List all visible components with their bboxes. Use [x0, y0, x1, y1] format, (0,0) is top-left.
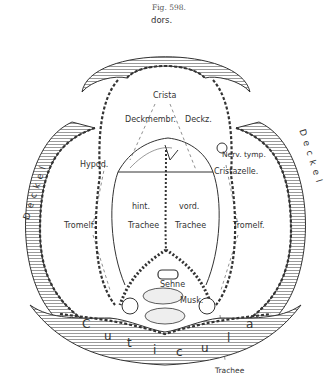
figure-caption: Fig. 598.	[152, 4, 186, 12]
label-trachee-bottom: Trachee	[215, 367, 244, 375]
label-tromelf-left: Tromelf.	[64, 222, 95, 230]
label-vord: vord.	[179, 203, 199, 211]
label-deckmembr: Deckmembr.	[125, 116, 176, 124]
dorsal-cuticle	[82, 57, 250, 92]
cuticula-letter-2: u	[104, 330, 112, 342]
cuticula-letter-6: u	[201, 342, 209, 354]
label-trachee-left: Trachee	[128, 222, 159, 230]
label-hint: hint.	[132, 203, 150, 211]
crista-organ	[118, 138, 227, 172]
tympanal-organ-diagram	[0, 0, 331, 386]
cuticula-letter-7: l	[227, 332, 230, 344]
label-nerv-tymp: Nerv. tymp.	[222, 151, 266, 159]
label-deckz: Deckz.	[185, 116, 212, 124]
cuticula-letter-5: c	[176, 346, 183, 358]
label-sehne: Sehne	[160, 281, 185, 289]
label-tromelf-right: Tromelf.	[233, 222, 264, 230]
cuticula-letter-1: C	[82, 318, 90, 330]
label-musk: Musk.	[180, 297, 203, 305]
label-cristazelle: Cristazelle.	[214, 168, 258, 176]
left-deckel	[26, 122, 121, 342]
label-dors: dors.	[151, 16, 172, 25]
cuticula-letter-4: i	[153, 344, 156, 356]
label-crista: Crista	[153, 92, 176, 100]
cuticula-letter-3: t	[127, 337, 132, 349]
cuticula-letter-8: a	[246, 318, 253, 330]
label-trachee-right: Trachee	[175, 222, 206, 230]
label-hypod: Hypod.	[80, 161, 108, 169]
